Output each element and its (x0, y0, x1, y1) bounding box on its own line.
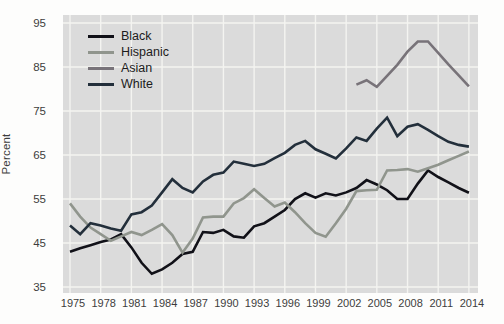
chart-canvas (0, 0, 504, 324)
legend-label: Hispanic (121, 47, 169, 58)
legend-label: Black (121, 31, 152, 42)
asian-series-swatch-icon (88, 67, 114, 70)
y-tick-label: 35 (16, 281, 46, 293)
y-tick-label: 85 (16, 61, 46, 73)
y-tick-label: 45 (16, 237, 46, 249)
chart-legend: Black Hispanic Asian White (88, 31, 169, 90)
x-tick-label: 1990 (214, 297, 238, 309)
y-tick-label: 75 (16, 105, 46, 117)
x-tick-label: 1981 (122, 297, 146, 309)
x-tick-label: 1978 (91, 297, 115, 309)
x-tick-label: 1993 (245, 297, 269, 309)
x-tick-label: 2002 (337, 297, 361, 309)
x-tick-label: 1996 (276, 297, 300, 309)
x-tick-label: 2008 (398, 297, 422, 309)
y-tick-label: 65 (16, 149, 46, 161)
legend-label: Asian (121, 63, 152, 74)
line-chart-figure: Percent 95857565554535 19751978198119841… (0, 0, 504, 324)
x-tick-label: 2014 (460, 297, 484, 309)
x-tick-label: 1984 (153, 297, 177, 309)
x-tick-label: 1987 (183, 297, 207, 309)
y-tick-label: 95 (16, 17, 46, 29)
legend-item-white: White (88, 79, 169, 90)
legend-label: White (121, 79, 153, 90)
x-tick-label: 1999 (306, 297, 330, 309)
legend-item-asian: Asian (88, 63, 169, 74)
hispanic-series-swatch-icon (88, 51, 114, 54)
legend-item-hispanic: Hispanic (88, 47, 169, 58)
x-tick-label: 2005 (368, 297, 392, 309)
black-series-swatch-icon (88, 35, 114, 38)
y-tick-label: 55 (16, 193, 46, 205)
y-axis-title: Percent (0, 122, 12, 186)
legend-item-black: Black (88, 31, 169, 42)
white-series-swatch-icon (88, 83, 114, 86)
x-tick-label: 2011 (429, 297, 453, 309)
x-tick-label: 1975 (61, 297, 85, 309)
